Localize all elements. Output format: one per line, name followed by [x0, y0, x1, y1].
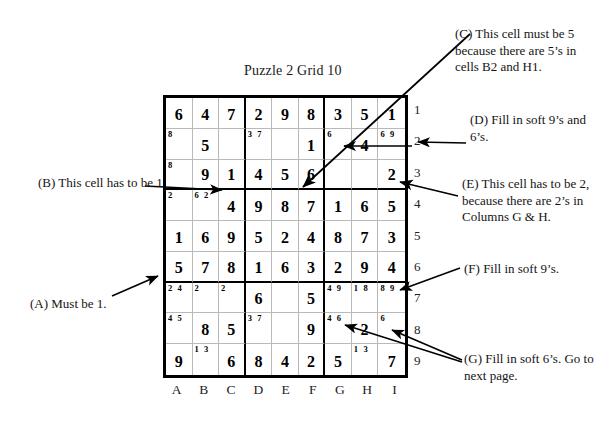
cell-F4[interactable]: 7 — [299, 190, 326, 221]
cell-A3[interactable]: 8 — [166, 160, 193, 191]
cell-B7[interactable]: 2 — [193, 283, 220, 314]
pencil-marks: 1 8 — [354, 283, 377, 293]
cell-B9[interactable]: 1 3 — [193, 344, 220, 375]
annotation-d: (D) Fill in soft 9’s and 6’s. — [470, 112, 595, 145]
column-label-G: G — [326, 382, 353, 398]
cell-H1[interactable]: 5 — [352, 98, 379, 129]
cell-I4[interactable]: 5 — [378, 190, 405, 221]
cell-I2[interactable]: 6 9 — [378, 129, 405, 160]
cell-value: 2 — [378, 162, 405, 188]
cell-D6[interactable]: 1 — [246, 252, 273, 283]
cell-I5[interactable]: 3 — [378, 221, 405, 252]
cell-G9[interactable]: 5 — [325, 344, 352, 375]
cell-value: 9 — [246, 194, 272, 220]
cell-C2[interactable] — [219, 129, 246, 160]
arrow-a — [112, 276, 158, 296]
cell-D8[interactable]: 3 7 — [246, 313, 273, 344]
cell-A2[interactable]: 8 — [166, 129, 193, 160]
cell-D4[interactable]: 9 — [246, 190, 273, 221]
cell-value: 2 — [299, 349, 324, 375]
cell-value: 7 — [352, 225, 378, 251]
pencil-marks: 2 — [221, 283, 243, 293]
cell-F8[interactable]: 9 — [299, 313, 326, 344]
cell-E8[interactable] — [272, 313, 299, 344]
cell-B6[interactable]: 7 — [193, 252, 220, 283]
cell-F6[interactable]: 3 — [299, 252, 326, 283]
cell-H4[interactable]: 6 — [352, 190, 379, 221]
sudoku-grid[interactable]: 647298351853 71646 9891456226 2498716516… — [163, 95, 408, 378]
cell-I6[interactable]: 4 — [378, 252, 405, 283]
pencil-marks: 4 9 — [327, 283, 350, 293]
cell-C9[interactable]: 6 — [219, 344, 246, 375]
cell-E4[interactable]: 8 — [272, 190, 299, 221]
cell-F5[interactable]: 4 — [299, 221, 326, 252]
cell-G4[interactable]: 1 — [325, 190, 352, 221]
cell-E7[interactable] — [272, 283, 299, 314]
cell-I9[interactable]: 7 — [378, 344, 405, 375]
cell-G7[interactable]: 4 9 — [325, 283, 352, 314]
annotation-b: (B) This cell has to be 1. — [38, 175, 168, 192]
cell-value: 6 — [272, 255, 298, 281]
pencil-marks: 1 3 — [354, 344, 377, 354]
cell-C6[interactable]: 8 — [219, 252, 246, 283]
cell-D5[interactable]: 5 — [246, 221, 273, 252]
cell-D2[interactable]: 3 7 — [246, 129, 273, 160]
cell-A5[interactable]: 1 — [166, 221, 193, 252]
cell-B4[interactable]: 6 2 — [193, 190, 220, 221]
cell-D7[interactable]: 6 — [246, 283, 273, 314]
cell-B1[interactable]: 4 — [193, 98, 220, 129]
cell-E9[interactable]: 4 — [272, 344, 299, 375]
cell-I3[interactable]: 2 — [378, 160, 405, 191]
column-label-E: E — [272, 382, 299, 398]
cell-A4[interactable]: 2 — [166, 190, 193, 221]
cell-G1[interactable]: 3 — [325, 98, 352, 129]
cell-C5[interactable]: 9 — [219, 221, 246, 252]
cell-H8[interactable]: 2 — [352, 313, 379, 344]
cell-D1[interactable]: 2 — [246, 98, 273, 129]
cell-E5[interactable]: 2 — [272, 221, 299, 252]
cell-C7[interactable]: 2 — [219, 283, 246, 314]
cell-E3[interactable]: 5 — [272, 160, 299, 191]
cell-C8[interactable]: 5 — [219, 313, 246, 344]
cell-G2[interactable]: 6 — [325, 129, 352, 160]
cell-F9[interactable]: 2 — [299, 344, 326, 375]
grid-row: 4 5853 794 626 — [166, 313, 405, 344]
cell-A6[interactable]: 5 — [166, 252, 193, 283]
cell-H5[interactable]: 7 — [352, 221, 379, 252]
cell-D9[interactable]: 8 — [246, 344, 273, 375]
cell-E6[interactable]: 6 — [272, 252, 299, 283]
cell-H2[interactable]: 4 — [352, 129, 379, 160]
cell-I1[interactable]: 1 — [378, 98, 405, 129]
cell-C1[interactable]: 7 — [219, 98, 246, 129]
cell-F3[interactable]: 6 — [299, 160, 326, 191]
cell-H7[interactable]: 1 8 — [352, 283, 379, 314]
cell-I8[interactable]: 6 — [378, 313, 405, 344]
cell-F2[interactable]: 1 — [299, 129, 326, 160]
grid-row: 578163294 — [166, 252, 405, 283]
cell-A8[interactable]: 4 5 — [166, 313, 193, 344]
cell-H9[interactable]: 1 3 — [352, 344, 379, 375]
cell-E1[interactable]: 9 — [272, 98, 299, 129]
cell-value: 3 — [299, 255, 324, 281]
cell-I7[interactable]: 8 9 — [378, 283, 405, 314]
cell-B2[interactable]: 5 — [193, 129, 220, 160]
cell-G8[interactable]: 4 6 — [325, 313, 352, 344]
cell-G6[interactable]: 2 — [325, 252, 352, 283]
cell-F7[interactable]: 5 — [299, 283, 326, 314]
cell-B8[interactable]: 8 — [193, 313, 220, 344]
cell-G3[interactable] — [325, 160, 352, 191]
cell-H3[interactable] — [352, 160, 379, 191]
cell-D3[interactable]: 4 — [246, 160, 273, 191]
cell-value: 5 — [299, 286, 324, 312]
cell-A9[interactable]: 9 — [166, 344, 193, 375]
cell-B5[interactable]: 6 — [193, 221, 220, 252]
cell-H6[interactable]: 9 — [352, 252, 379, 283]
cell-E2[interactable] — [272, 129, 299, 160]
pencil-marks: 6 — [327, 129, 350, 139]
cell-G5[interactable]: 8 — [325, 221, 352, 252]
cell-A1[interactable]: 6 — [166, 98, 193, 129]
cell-C4[interactable]: 4 — [219, 190, 246, 221]
cell-B3[interactable]: 9 — [193, 160, 220, 191]
cell-F1[interactable]: 8 — [299, 98, 326, 129]
cell-C3[interactable]: 1 — [219, 160, 246, 191]
